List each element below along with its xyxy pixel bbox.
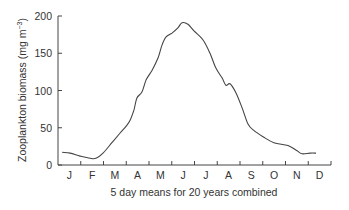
zooplankton-chart: 050100150200 JFMAMJJASOND Zooplankton bi… (0, 0, 349, 210)
x-tick-label: D (316, 169, 324, 181)
y-tick-label: 0 (46, 159, 52, 171)
x-tick-label: M (156, 169, 165, 181)
x-tick-label: J (67, 169, 72, 181)
x-tick-label: J (203, 169, 208, 181)
y-axis-label: Zooplankton biomass (mg m−3) (16, 18, 28, 162)
x-tick-label: N (293, 169, 301, 181)
x-axis-label: 5 day means for 20 years combined (111, 186, 278, 198)
x-tick-label: J (181, 169, 186, 181)
x-tick-label: A (225, 169, 232, 181)
x-tick-label: O (270, 169, 278, 181)
y-axis: 050100150200 (34, 10, 62, 171)
x-tick-label: M (111, 169, 120, 181)
x-tick-label: A (134, 169, 141, 181)
y-tick-label: 200 (34, 10, 52, 22)
x-tick-label: S (248, 169, 255, 181)
y-tick-label: 150 (34, 47, 52, 59)
y-tick-label: 100 (34, 85, 52, 97)
x-tick-label: F (89, 169, 95, 181)
x-axis: JFMAMJJASOND (58, 161, 331, 181)
biomass-line (62, 22, 316, 158)
y-tick-label: 50 (40, 122, 52, 134)
